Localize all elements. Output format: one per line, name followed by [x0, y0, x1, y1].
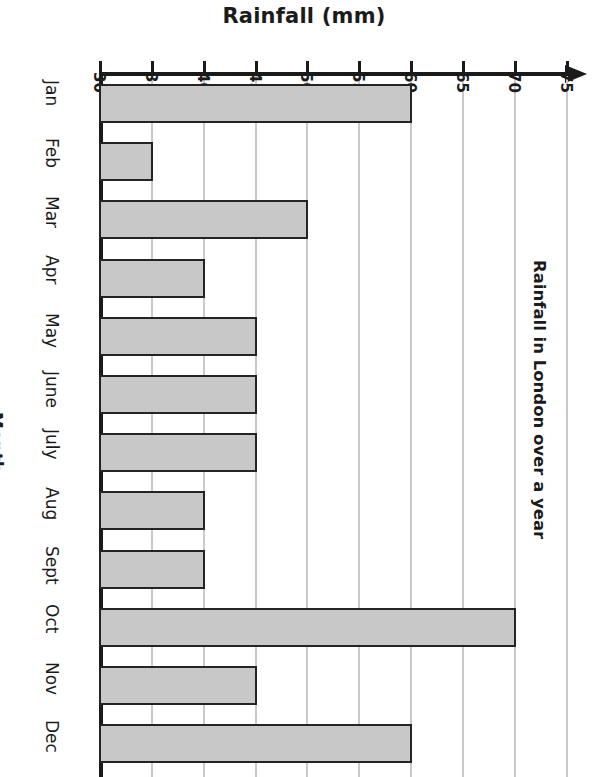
- bar: [99, 200, 308, 239]
- bar: [99, 666, 257, 705]
- bar: [99, 608, 516, 647]
- category-label: June: [42, 371, 62, 408]
- gridline: [358, 76, 360, 777]
- tick-label: 70: [505, 72, 523, 93]
- gridline: [514, 76, 516, 777]
- gridline: [462, 76, 464, 777]
- y-axis-title: Month: [0, 412, 6, 473]
- category-label: Dec: [42, 720, 62, 753]
- gridline: [306, 76, 308, 777]
- category-label: July: [42, 429, 62, 460]
- bar: [99, 375, 257, 414]
- category-label: Feb: [42, 138, 62, 168]
- gridline: [410, 76, 412, 777]
- category-label: Oct: [42, 604, 62, 633]
- bar: [99, 142, 153, 181]
- tick-label: 75: [557, 72, 575, 93]
- rainfall-bar-chart: Rainfall (mm) Rainfall in London over a …: [0, 0, 608, 777]
- category-label: Jan: [42, 80, 62, 106]
- bar: [99, 491, 205, 530]
- category-label: Nov: [42, 662, 62, 695]
- bar: [99, 84, 412, 123]
- plot-area: 30354045505560657075: [99, 72, 569, 777]
- category-label: Sept: [42, 546, 62, 585]
- category-label: Mar: [42, 196, 62, 228]
- bar: [99, 550, 205, 589]
- category-label: Aug: [42, 487, 62, 520]
- bar: [99, 724, 412, 763]
- bar: [99, 433, 257, 472]
- bar: [99, 317, 257, 356]
- value-axis-line: [99, 72, 569, 76]
- x-axis-title: Rainfall (mm): [0, 4, 608, 28]
- category-label: May: [42, 313, 62, 348]
- gridline: [566, 76, 568, 777]
- tick-label: 65: [453, 72, 471, 93]
- bar: [99, 259, 205, 298]
- category-label: Apr: [42, 255, 62, 284]
